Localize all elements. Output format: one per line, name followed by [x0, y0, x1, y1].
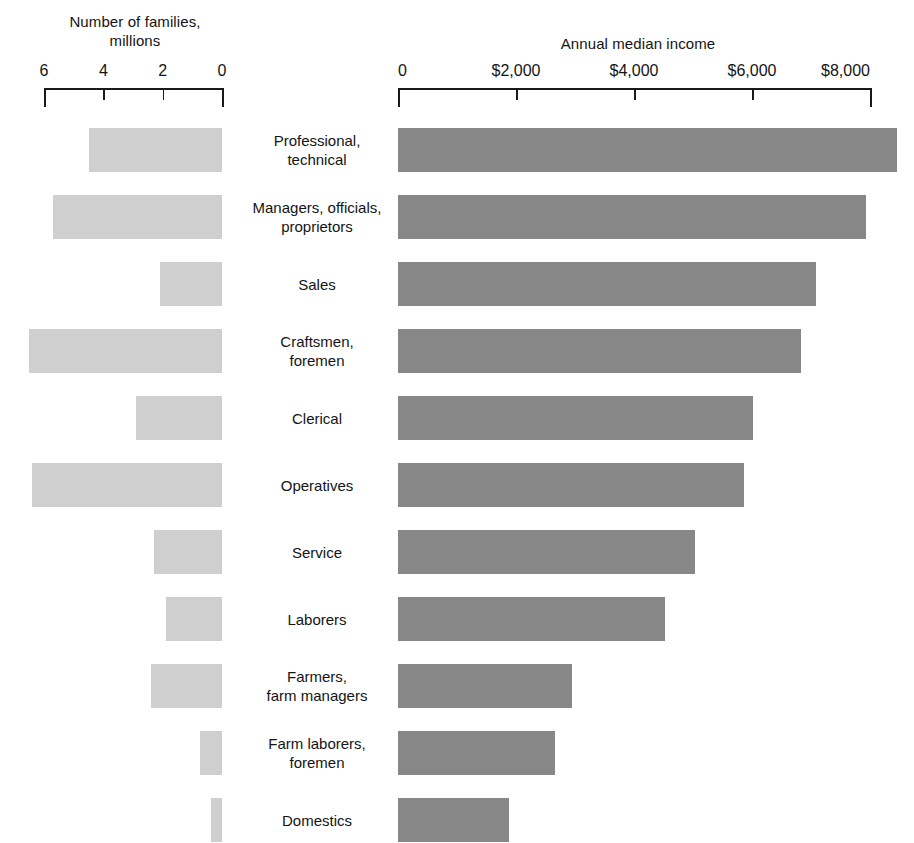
left-axis-tick-label: 6: [40, 62, 49, 80]
category-label: Farm laborers, foremen: [237, 734, 397, 772]
bar-median-income: [398, 798, 509, 842]
bar-median-income: [398, 195, 866, 239]
left-axis-tick-mark: [222, 88, 224, 107]
chart-canvas: Number of families, millions 6420 Annual…: [0, 0, 914, 843]
bar-families: [53, 195, 222, 239]
category-label: Managers, officials, proprietors: [237, 198, 397, 236]
bar-median-income: [398, 463, 744, 507]
right-axis-tick-label: 0: [398, 62, 407, 80]
bar-median-income: [398, 262, 816, 306]
category-label: Service: [237, 543, 397, 562]
chart-row: Farm laborers, foremen: [0, 731, 914, 775]
bar-median-income: [398, 731, 555, 775]
chart-row: Domestics: [0, 798, 914, 842]
bar-families: [151, 664, 222, 708]
chart-row: Service: [0, 530, 914, 574]
bar-families: [29, 329, 222, 373]
left-axis-tick-mark: [103, 88, 105, 100]
left-axis-tick-label: 4: [99, 62, 108, 80]
category-label: Laborers: [237, 610, 397, 629]
category-label: Farmers, farm managers: [237, 667, 397, 705]
right-axis-tick-mark: [516, 88, 518, 100]
category-label: Sales: [237, 275, 397, 294]
chart-row: Farmers, farm managers: [0, 664, 914, 708]
bar-median-income: [398, 597, 665, 641]
bar-families: [166, 597, 222, 641]
bar-families: [89, 128, 223, 172]
left-axis-title: Number of families, millions: [20, 12, 250, 50]
chart-row: Craftsmen, foremen: [0, 329, 914, 373]
right-axis-tick-mark: [752, 88, 754, 100]
bar-families: [160, 262, 222, 306]
right-axis-tick-label: $6,000: [728, 62, 777, 80]
chart-row: Professional, technical: [0, 128, 914, 172]
right-axis-tick-mark: [870, 88, 872, 107]
chart-row: Laborers: [0, 597, 914, 641]
right-axis-tick-label: $4,000: [610, 62, 659, 80]
category-label: Operatives: [237, 476, 397, 495]
bar-families: [154, 530, 222, 574]
bar-families: [32, 463, 222, 507]
bar-median-income: [398, 128, 897, 172]
bar-median-income: [398, 530, 695, 574]
right-axis-tick-mark: [398, 88, 400, 107]
category-label: Professional, technical: [237, 131, 397, 169]
left-axis-tick-label: 0: [218, 62, 227, 80]
right-axis-tick-label: $2,000: [492, 62, 541, 80]
right-axis-tick-label: $8,000: [821, 62, 870, 80]
left-axis-tick-mark: [44, 88, 46, 107]
category-label: Clerical: [237, 409, 397, 428]
bar-median-income: [398, 329, 801, 373]
left-axis-tick-mark: [163, 88, 165, 100]
bar-families: [136, 396, 222, 440]
category-label: Craftsmen, foremen: [237, 332, 397, 370]
left-axis-tick-label: 2: [158, 62, 167, 80]
left-axis-baseline: [44, 88, 222, 90]
bar-families: [200, 731, 222, 775]
right-axis-tick-mark: [634, 88, 636, 100]
bar-median-income: [398, 664, 572, 708]
bar-families: [211, 798, 222, 842]
chart-row: Sales: [0, 262, 914, 306]
chart-row: Managers, officials, proprietors: [0, 195, 914, 239]
category-label: Domestics: [237, 811, 397, 830]
bar-median-income: [398, 396, 753, 440]
chart-row: Clerical: [0, 396, 914, 440]
right-axis-title: Annual median income: [398, 34, 878, 53]
chart-row: Operatives: [0, 463, 914, 507]
